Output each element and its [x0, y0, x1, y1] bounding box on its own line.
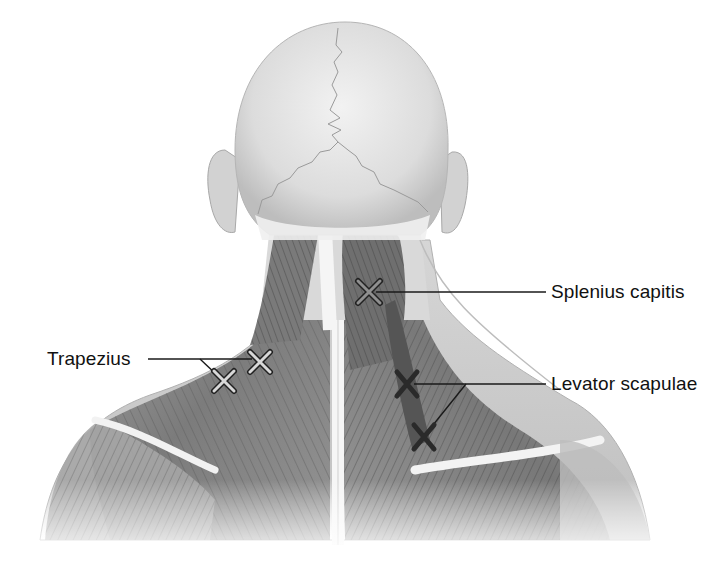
- label-levator-scapulae: Levator scapulae: [551, 373, 697, 395]
- label-trapezius: Trapezius: [47, 348, 131, 370]
- label-splenius-capitis: Splenius capitis: [551, 281, 685, 303]
- head: [208, 22, 468, 240]
